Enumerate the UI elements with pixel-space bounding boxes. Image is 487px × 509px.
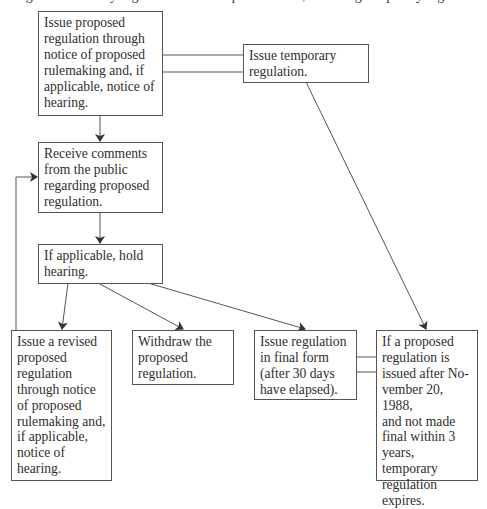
connector-final-to-expires [356, 357, 376, 372]
box-issue-revised-regulation: Issue a revised proposed regulation thro… [11, 330, 112, 481]
box-temporary-regulation-expires: If a proposed regulation is issued after… [376, 330, 478, 481]
arrow-hearing-to-final [148, 283, 305, 329]
box-receive-comments: Receive comments from the public regardi… [38, 142, 163, 213]
box-hold-hearing: If applicable, hold hearing. [38, 244, 163, 284]
box-issue-proposed-regulation: Issue proposed regulation through notice… [38, 11, 163, 116]
arrow-hearing-to-revised [62, 283, 68, 329]
connector-proposed-to-temporary [162, 55, 243, 72]
box-issue-final-regulation: Issue regulation in final form (after 30… [254, 330, 357, 400]
box-issue-temporary-regulation: Issue temporary regulation. [243, 44, 369, 83]
box-withdraw-regulation: Withdraw the proposed regulation. [132, 330, 234, 385]
arrow-revised-to-comments-loop [16, 177, 37, 330]
arrow-temporary-to-expires [306, 82, 426, 329]
